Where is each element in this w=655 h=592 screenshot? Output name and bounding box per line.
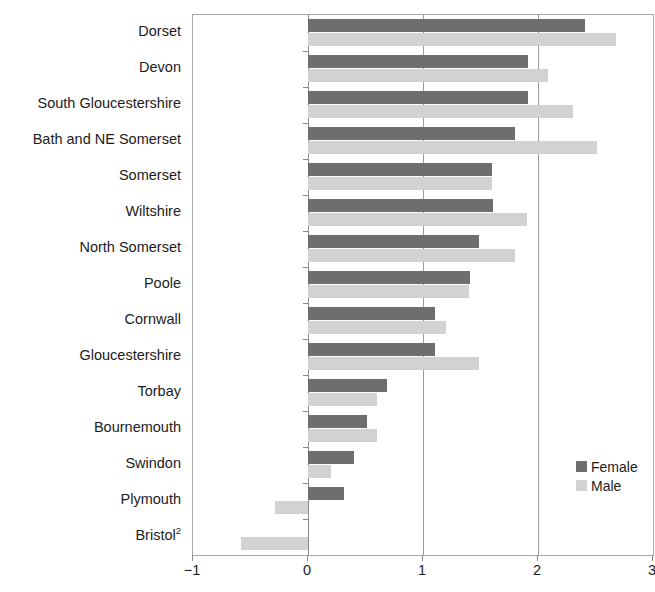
bar-female	[308, 451, 354, 464]
bar-group	[193, 15, 653, 51]
bar-male	[308, 321, 446, 334]
bar-group	[193, 159, 653, 195]
y-axis-label: Bath and NE Somerset	[0, 132, 188, 147]
y-axis-label: Bristol2	[0, 528, 188, 543]
x-axis-tick-labels: −10123	[192, 562, 654, 588]
bar-female	[308, 235, 479, 248]
legend-swatch-icon	[576, 461, 587, 472]
bar-female	[308, 19, 585, 32]
y-axis-label: Somerset	[0, 168, 188, 183]
bar-female	[308, 343, 435, 356]
bar-female	[308, 487, 344, 500]
bar-male	[308, 105, 573, 118]
bar-group	[193, 87, 653, 123]
x-axis-tick-label: 3	[648, 562, 655, 578]
y-axis-label: Bournemouth	[0, 420, 188, 435]
bar-group	[193, 519, 653, 555]
bar-male	[308, 141, 597, 154]
bar-male	[308, 465, 331, 478]
bar-male	[275, 501, 308, 514]
label-footnote-marker: 2	[176, 525, 181, 536]
y-axis-label: Cornwall	[0, 312, 188, 327]
bar-male	[308, 177, 492, 190]
chart-legend: FemaleMale	[576, 458, 652, 496]
x-axis-tick	[307, 555, 308, 561]
bar-group	[193, 267, 653, 303]
x-axis-tick-label: 2	[533, 562, 541, 578]
legend-label: Female	[591, 460, 638, 474]
bar-group	[193, 375, 653, 411]
bar-male	[308, 69, 548, 82]
bar-female	[308, 91, 528, 104]
x-axis-ticks	[192, 555, 654, 562]
x-axis-tick	[192, 555, 193, 561]
bar-male	[308, 393, 377, 406]
y-axis-label: Wiltshire	[0, 204, 188, 219]
bar-male	[308, 357, 479, 370]
bar-female	[308, 163, 492, 176]
bar-group	[193, 195, 653, 231]
x-axis-tick-label: 1	[418, 562, 426, 578]
x-axis-tick-label: 0	[303, 562, 311, 578]
bar-group	[193, 303, 653, 339]
y-axis-label: Swindon	[0, 456, 188, 471]
y-axis-label: Plymouth	[0, 492, 188, 507]
bar-male	[241, 537, 308, 550]
bar-female	[308, 415, 367, 428]
bar-group	[193, 339, 653, 375]
legend-label: Male	[591, 479, 621, 493]
x-axis-tick-label: −1	[184, 562, 201, 578]
y-axis-label: South Gloucestershire	[0, 96, 188, 111]
y-axis-label: Dorset	[0, 24, 188, 39]
bar-group	[193, 231, 653, 267]
bar-group	[193, 411, 653, 447]
y-axis-label: North Somerset	[0, 240, 188, 255]
legend-item: Male	[576, 477, 652, 494]
legend-swatch-icon	[576, 480, 587, 491]
bar-female	[308, 271, 470, 284]
bar-group	[193, 51, 653, 87]
x-axis-tick	[652, 555, 653, 561]
bar-female	[308, 199, 493, 212]
x-axis-tick	[422, 555, 423, 561]
y-axis-label: Poole	[0, 276, 188, 291]
bar-male	[308, 213, 527, 226]
bar-male	[308, 429, 377, 442]
bar-group	[193, 123, 653, 159]
bar-male	[308, 285, 469, 298]
bar-male	[308, 33, 616, 46]
legend-item: Female	[576, 458, 652, 475]
y-axis-label: Gloucestershire	[0, 348, 188, 363]
bar-female	[308, 127, 515, 140]
y-axis-label: Devon	[0, 60, 188, 75]
bar-female	[308, 379, 387, 392]
y-axis-label: Torbay	[0, 384, 188, 399]
chart-container: DorsetDevonSouth GloucestershireBath and…	[0, 0, 655, 592]
bar-female	[308, 55, 528, 68]
bar-male	[308, 249, 515, 262]
bar-female	[308, 307, 435, 320]
x-axis-tick	[537, 555, 538, 561]
y-axis-category-labels: DorsetDevonSouth GloucestershireBath and…	[0, 14, 188, 554]
